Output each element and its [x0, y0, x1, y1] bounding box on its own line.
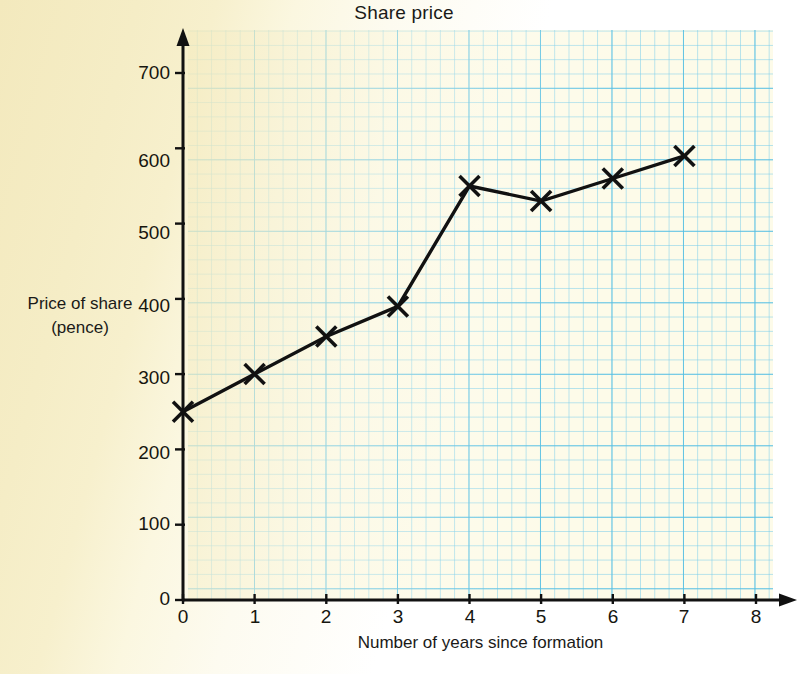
x-tick-label-8: 8: [736, 606, 776, 628]
y-tick-label-200: 200: [108, 442, 170, 464]
x-tick-label-2: 2: [306, 606, 346, 628]
x-tick-label-5: 5: [521, 606, 561, 628]
x-tick-label-4: 4: [450, 606, 490, 628]
y-tick-label-700: 700: [108, 62, 170, 84]
x-tick-label-6: 6: [593, 606, 633, 628]
y-tick-label-0: 0: [108, 588, 170, 610]
y-tick-label-100: 100: [108, 513, 170, 535]
y-tick-label-300: 300: [108, 367, 170, 389]
x-axis-label: Number of years since formation: [188, 633, 773, 653]
plot-area: [188, 30, 773, 601]
x-axis-arrow-icon: [779, 594, 797, 607]
y-tick-label-500: 500: [108, 222, 170, 244]
x-tick-label-1: 1: [235, 606, 275, 628]
chart-page: Share price Price of share (pence) Numbe…: [0, 0, 808, 674]
chart-title: Share price: [0, 2, 808, 24]
x-tick-label-0: 0: [163, 606, 203, 628]
y-tick-label-600: 600: [108, 150, 170, 172]
y-tick-label-400: 400: [108, 295, 170, 317]
y-axis-label-line2: (pence): [4, 316, 156, 340]
graph-paper-grid: [188, 30, 773, 601]
x-tick-label-3: 3: [378, 606, 418, 628]
y-axis-ticks: [175, 73, 185, 600]
x-tick-label-7: 7: [664, 606, 704, 628]
